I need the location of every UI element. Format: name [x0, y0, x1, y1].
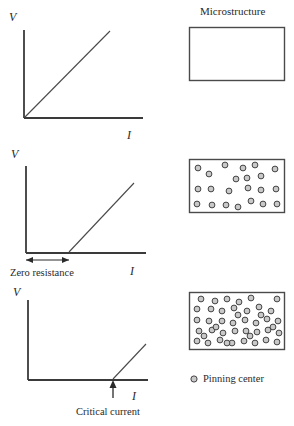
panel-bottom-graph	[28, 300, 148, 398]
zero-resistance-arrow	[26, 257, 69, 263]
microstructure-box-bottom	[190, 293, 285, 350]
microstructure-box-middle	[190, 160, 285, 213]
panel-top-v-label: V	[9, 11, 16, 23]
panel-middle-v-label: V	[11, 148, 18, 160]
panel-bottom-i-label: I	[132, 390, 136, 402]
panel-top-i-label: I	[127, 129, 131, 141]
pinning-center-legend-label: Pinning center	[203, 374, 264, 385]
critical-current-caption: Critical current	[76, 407, 140, 418]
superconductivity-iv-figure	[0, 0, 294, 426]
zero-resistance-caption: Zero resistance	[10, 268, 74, 279]
microstructure-title: Microstructure	[200, 6, 265, 17]
panel-middle-iv-curve	[69, 183, 134, 252]
panel-middle-graph	[26, 166, 146, 263]
critical-current-arrow	[110, 380, 117, 398]
panel-top-iv-curve	[25, 31, 110, 117]
figure-canvas	[0, 0, 294, 426]
microstructure-box-top	[190, 28, 285, 81]
panel-bottom-iv-curve	[113, 344, 146, 379]
panel-middle-i-label: I	[130, 265, 134, 277]
panel-top-graph	[24, 30, 143, 118]
panel-bottom-v-label: V	[13, 286, 20, 298]
pinning-center-legend-icon	[191, 376, 197, 382]
